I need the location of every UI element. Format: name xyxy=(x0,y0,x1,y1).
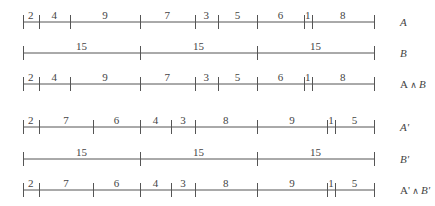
row-B_prime: 151515B' xyxy=(23,146,410,166)
segment-length-label: 5 xyxy=(352,114,358,126)
row-B: 151515B xyxy=(23,40,407,60)
segment-length-label: 1 xyxy=(328,177,334,189)
segment-length-label: 1 xyxy=(305,9,311,21)
segment-length-label: 5 xyxy=(235,9,241,21)
segment-length-label: 7 xyxy=(63,177,69,189)
segment-length-label: 7 xyxy=(165,71,171,83)
segment-length-label: 8 xyxy=(223,114,229,126)
row-A_and_B: 249735618A ∧ B xyxy=(23,71,426,91)
segment-length-label: 15 xyxy=(310,40,322,52)
segment-length-label: 8 xyxy=(340,9,346,21)
segment-length-label: 5 xyxy=(352,177,358,189)
row-label: A' xyxy=(399,121,410,133)
segment-length-label: 9 xyxy=(102,71,108,83)
segment-length-label: 3 xyxy=(204,9,210,21)
segment-length-label: 9 xyxy=(289,177,295,189)
row-label: B' xyxy=(400,153,410,165)
segment-length-label: 1 xyxy=(328,114,334,126)
segment-length-label: 5 xyxy=(235,71,241,83)
segment-length-label: 4 xyxy=(51,9,57,21)
segment-length-label: 8 xyxy=(223,177,229,189)
segment-length-label: 6 xyxy=(278,71,284,83)
segment-length-label: 6 xyxy=(114,114,120,126)
segment-length-label: 3 xyxy=(180,177,186,189)
segment-length-label: 6 xyxy=(278,9,284,21)
segment-length-label: 2 xyxy=(28,114,34,126)
segment-length-label: 7 xyxy=(165,9,171,21)
row-A_prime_and_B_prime: 276438915A' ∧ B' xyxy=(23,177,431,197)
segment-length-label: 15 xyxy=(193,40,205,52)
row-A: 249735618A xyxy=(23,9,407,29)
segment-length-label: 3 xyxy=(180,114,186,126)
row-label: B xyxy=(400,47,407,59)
segment-length-label: 2 xyxy=(28,177,34,189)
segment-length-label: 1 xyxy=(305,71,311,83)
segment-length-label: 8 xyxy=(340,71,346,83)
segment-length-label: 2 xyxy=(28,9,34,21)
interval-diagram: 249735618A151515B249735618A ∧ B276438915… xyxy=(0,0,435,206)
segment-length-label: 4 xyxy=(153,177,159,189)
segment-length-label: 15 xyxy=(76,40,88,52)
segment-length-label: 6 xyxy=(114,177,120,189)
row-label: A xyxy=(399,16,407,28)
segment-length-label: 9 xyxy=(102,9,108,21)
segment-length-label: 7 xyxy=(63,114,69,126)
segment-length-label: 15 xyxy=(310,146,322,158)
row-label: A ∧ B xyxy=(400,78,426,90)
segment-length-label: 9 xyxy=(289,114,295,126)
segment-length-label: 4 xyxy=(51,71,57,83)
segment-length-label: 15 xyxy=(193,146,205,158)
row-label: A' ∧ B' xyxy=(400,184,431,196)
segment-length-label: 4 xyxy=(153,114,159,126)
segment-length-label: 15 xyxy=(76,146,88,158)
row-A_prime: 276438915A' xyxy=(23,114,410,134)
segment-length-label: 2 xyxy=(28,71,34,83)
segment-length-label: 3 xyxy=(204,71,210,83)
